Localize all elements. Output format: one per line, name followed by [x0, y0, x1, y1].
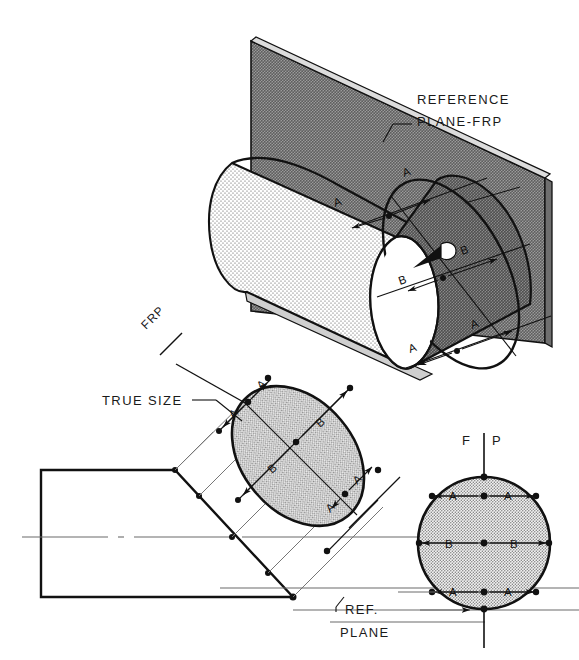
view-arrow-tail — [441, 242, 456, 259]
prof-point-bottom — [481, 589, 488, 596]
aux-rim-5 — [375, 467, 381, 473]
fold-label-profile: P — [492, 433, 501, 448]
technical-drawing-sheet: REFERENCE PLANE-FRP A A B B A A — [0, 0, 579, 660]
prof-letter-a1: A — [449, 490, 457, 502]
aux-rim-1 — [265, 375, 271, 381]
aux-point-3 — [342, 491, 348, 497]
prof-center-point — [481, 540, 488, 547]
prof-letter-a2: A — [504, 490, 512, 502]
prof-point-top — [481, 493, 488, 500]
ref-plane-label-line2: PLANE — [340, 625, 390, 640]
pic-point-2 — [440, 275, 446, 281]
prof-rim-2 — [533, 493, 539, 499]
reference-plane-edge-right — [545, 178, 552, 347]
prof-letter-a4: A — [504, 586, 512, 598]
aux-point-2 — [293, 439, 299, 445]
aux-rim-4 — [235, 497, 241, 503]
aux-rim-2 — [216, 428, 222, 434]
ref-plane-label-line1: REF. — [345, 602, 379, 617]
aux-rim-6 — [324, 548, 330, 554]
fold-label-front: F — [462, 433, 470, 448]
reference-plane-label-line2: PLANE-FRP — [417, 114, 503, 129]
true-size-label: TRUE SIZE — [102, 393, 183, 408]
prof-rim-1 — [429, 493, 435, 499]
aux-rim-3 — [347, 385, 353, 391]
prof-point-apex — [481, 474, 488, 481]
reference-plane-label-line1: REFERENCE — [417, 92, 510, 107]
drawing-canvas: REFERENCE PLANE-FRP A A B B A A — [0, 0, 579, 660]
pic-point-1 — [386, 213, 392, 219]
prof-letter-b2: B — [510, 538, 518, 550]
prof-letter-b1: B — [445, 538, 453, 550]
prof-rim-3 — [416, 540, 422, 546]
prof-letter-a3: A — [449, 586, 457, 598]
pic-point-3 — [454, 348, 460, 354]
prof-rim-4 — [546, 540, 552, 546]
prof-point-base — [481, 606, 488, 613]
prof-rim-6 — [533, 589, 539, 595]
